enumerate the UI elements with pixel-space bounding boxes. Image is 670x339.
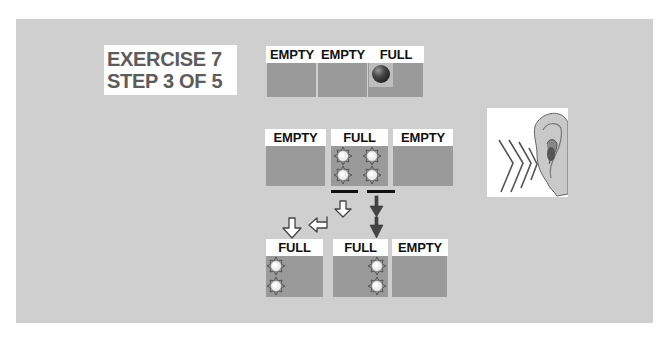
top-cell-1-label: EMPTY (266, 46, 318, 63)
exercise-label: EXERCISE 7 (107, 48, 222, 70)
dark-ball-icon (372, 65, 390, 83)
arrows-diagram (280, 195, 390, 245)
middle-cell-2-label: FULL (331, 129, 388, 146)
bottom-cell-1-label: FULL (266, 239, 323, 256)
middle-cell-3-label: EMPTY (393, 129, 453, 146)
middle-cell-3 (393, 146, 453, 186)
ear-listening-icon (487, 108, 568, 197)
dark-down-arrows-icon (370, 196, 383, 238)
split-bar-left (331, 190, 358, 193)
atom-icon (333, 165, 353, 185)
top-cell-1 (267, 63, 316, 97)
bottom-cell-3 (392, 256, 447, 297)
atom-icon (266, 256, 286, 276)
bottom-cell-3-label: EMPTY (392, 239, 448, 256)
atom-icon (362, 165, 382, 185)
middle-cell-1 (266, 146, 325, 186)
atom-icon (367, 256, 387, 276)
top-cell-2-label: EMPTY (318, 46, 368, 63)
step-label: STEP 3 OF 5 (107, 70, 222, 92)
bottom-cell-2-label: FULL (333, 239, 388, 256)
atom-icon (362, 146, 382, 166)
exercise-title-box: EXERCISE 7 STEP 3 OF 5 (104, 45, 237, 95)
atom-icon (266, 276, 286, 296)
middle-cell-1-label: EMPTY (265, 129, 326, 146)
top-cell-3-label: FULL (368, 46, 424, 63)
white-outlined-arrows-icon (283, 201, 351, 238)
top-cell-2 (318, 63, 367, 97)
atom-icon (367, 276, 387, 296)
atom-icon (333, 146, 353, 166)
split-bar-right (367, 190, 395, 193)
